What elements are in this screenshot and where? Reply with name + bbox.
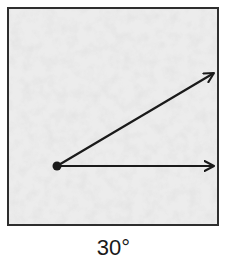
vertex-dot — [53, 162, 62, 171]
marble-texture — [8, 8, 218, 225]
angle-figure: 30° — [0, 0, 227, 265]
angle-diagram-canvas — [0, 0, 227, 265]
angle-label: 30° — [0, 236, 227, 260]
